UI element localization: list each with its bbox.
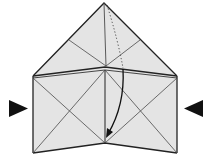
push-arrow-right-icon — [184, 100, 203, 117]
push-arrow-left-icon — [9, 100, 28, 117]
base-square — [33, 67, 177, 153]
upper-triangle-flap — [33, 3, 177, 76]
origami-diagram — [0, 0, 217, 167]
